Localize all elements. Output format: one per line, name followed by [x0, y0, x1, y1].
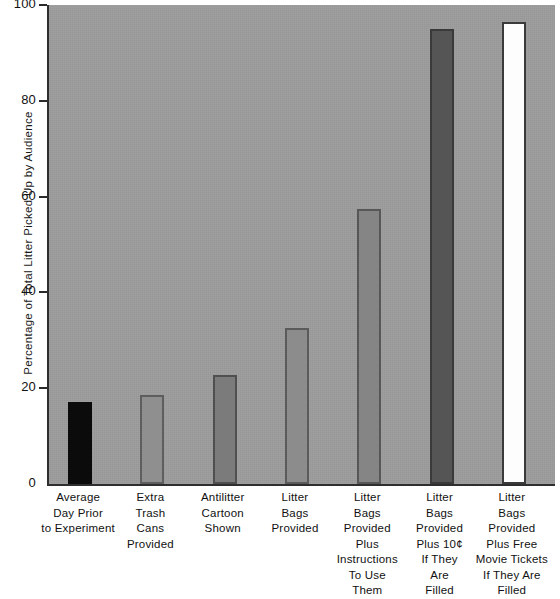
- x-axis-category-label-line: Bags: [464, 506, 560, 522]
- x-axis-category-label-7: LitterBagsProvidedPlus FreeMovie Tickets…: [464, 490, 560, 599]
- x-axis-category-label-line: Litter: [464, 490, 560, 506]
- y-axis-tick-label: 20: [21, 379, 36, 394]
- bar-1: [68, 402, 92, 484]
- x-axis-category-label-line: Plus Free: [464, 537, 560, 553]
- y-axis-tick-label: 80: [21, 92, 36, 107]
- x-axis-category-label-line: Provided: [464, 521, 560, 537]
- y-axis-tick-mark: [39, 100, 47, 102]
- bars-layer: [49, 5, 555, 484]
- y-axis-tick-mark: [39, 387, 47, 389]
- bar-5: [357, 209, 381, 484]
- bar-6: [430, 29, 454, 484]
- plot-area: [47, 5, 555, 486]
- y-axis-tick-label: 60: [21, 188, 36, 203]
- litter-pickup-bar-chart: Percentage of Total Litter Picked Up by …: [0, 0, 560, 599]
- y-axis-tick-label: 0: [29, 475, 36, 490]
- x-axis-category-label-line: Filled: [464, 583, 560, 599]
- bar-3: [213, 375, 237, 484]
- y-axis-tick-mark: [39, 4, 47, 6]
- y-axis-tick-mark: [39, 291, 47, 293]
- x-axis-category-labels: AverageDay Priorto ExperimentExtraTrashC…: [47, 490, 553, 599]
- bar-2: [140, 395, 164, 484]
- x-axis-category-label-line: Movie Tickets: [464, 552, 560, 568]
- y-axis-tick-mark: [39, 196, 47, 198]
- x-axis-category-label-line: If They Are: [464, 568, 560, 584]
- x-axis-category-label-line: Provided: [102, 537, 198, 553]
- bar-4: [285, 328, 309, 484]
- y-axis-tick-label: 40: [21, 283, 36, 298]
- bar-7: [502, 22, 526, 484]
- y-axis-tick-label: 100: [14, 0, 36, 11]
